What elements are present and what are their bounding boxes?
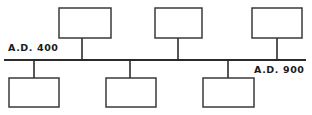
connector-group bbox=[34, 38, 277, 78]
axis-start-label: A.D. 400 bbox=[8, 42, 59, 53]
event-box[interactable] bbox=[59, 8, 111, 38]
event-box[interactable] bbox=[252, 8, 302, 38]
event-box[interactable] bbox=[155, 8, 202, 38]
event-box[interactable] bbox=[203, 78, 254, 107]
event-box-group bbox=[9, 8, 302, 107]
axis-end-label: A.D. 900 bbox=[254, 64, 305, 75]
timeline-diagram: A.D. 400 A.D. 900 bbox=[0, 0, 312, 115]
event-box[interactable] bbox=[9, 78, 59, 107]
timeline-canvas: A.D. 400 A.D. 900 bbox=[0, 0, 312, 115]
event-box[interactable] bbox=[106, 78, 156, 107]
